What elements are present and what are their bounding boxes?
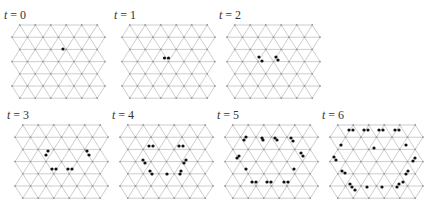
particle-dot xyxy=(411,159,414,162)
lattice-edge xyxy=(369,149,377,161)
lattice-edge xyxy=(415,149,423,161)
particle-dot xyxy=(362,128,365,131)
lattice-vertex xyxy=(399,149,401,151)
lattice-edge xyxy=(377,174,385,186)
lattice-vertex xyxy=(399,173,401,175)
lattice-vertex xyxy=(399,197,401,199)
lattice-edge xyxy=(338,186,346,198)
lattice-vertex xyxy=(422,136,424,138)
lattice-edge xyxy=(377,162,385,174)
particle-dot xyxy=(347,128,350,131)
lattice-edge xyxy=(392,137,400,149)
lattice-vertex xyxy=(407,161,409,163)
lattice-edge xyxy=(353,149,361,161)
particle-dot xyxy=(339,143,342,146)
particle-dot xyxy=(343,171,346,174)
lattice-edge xyxy=(361,174,369,186)
lattice-vertex xyxy=(383,197,385,199)
lattice-vertex xyxy=(414,173,416,175)
triangular-lattice xyxy=(0,0,438,217)
lattice-vertex xyxy=(352,149,354,151)
lattice-vertex xyxy=(329,136,331,138)
particle-dot xyxy=(404,143,407,146)
particle-dot xyxy=(395,185,398,188)
particle-dot xyxy=(353,188,356,191)
lattice-edge xyxy=(353,137,361,149)
lattice-edge xyxy=(415,174,423,186)
lattice-edge xyxy=(392,149,400,161)
lattice-edge xyxy=(338,137,346,149)
lattice-edge xyxy=(408,149,416,161)
lattice-edge xyxy=(353,162,361,174)
lattice-vertex xyxy=(399,124,401,126)
lattice-vertex xyxy=(407,185,409,187)
lattice-edge xyxy=(338,174,346,186)
lattice-edge xyxy=(384,137,392,149)
particle-dot xyxy=(351,128,354,131)
lattice-vertex xyxy=(345,136,347,138)
lattice-vertex xyxy=(414,149,416,151)
lattice-edge xyxy=(415,125,423,137)
lattice-edge xyxy=(384,174,392,186)
lattice-vertex xyxy=(391,161,393,163)
lattice-vertex xyxy=(329,185,331,187)
lattice-vertex xyxy=(345,185,347,187)
lattice-edge xyxy=(415,162,423,174)
lattice-vertex xyxy=(422,161,424,163)
particle-dot xyxy=(350,185,353,188)
particle-dot xyxy=(406,169,409,172)
lattice-vertex xyxy=(391,185,393,187)
lattice-edge xyxy=(384,125,392,137)
lattice-vertex xyxy=(337,124,339,126)
lattice-edge xyxy=(400,125,408,137)
lattice-edge xyxy=(338,125,346,137)
lattice-edge xyxy=(369,125,377,137)
lattice-vertex xyxy=(376,161,378,163)
lattice-vertex xyxy=(414,124,416,126)
lattice-vertex xyxy=(360,136,362,138)
particle-dot xyxy=(393,128,396,131)
lattice-edge xyxy=(353,174,361,186)
lattice-vertex xyxy=(360,161,362,163)
lattice-vertex xyxy=(337,173,339,175)
lattice-edge xyxy=(384,149,392,161)
lattice-edge xyxy=(384,162,392,174)
lattice-vertex xyxy=(383,149,385,151)
lattice-vertex xyxy=(368,124,370,126)
lattice-edge xyxy=(330,162,338,174)
lattice-vertex xyxy=(352,197,354,199)
lattice-edge xyxy=(353,186,361,198)
lattice-edge xyxy=(369,186,377,198)
lattice-edge xyxy=(369,162,377,174)
lattice-edge xyxy=(408,137,416,149)
lattice-vertex xyxy=(368,197,370,199)
lattice-edge xyxy=(346,137,354,149)
particle-dot xyxy=(365,185,368,188)
lattice-edge xyxy=(408,174,416,186)
lattice-edge xyxy=(408,125,416,137)
lattice-vertex xyxy=(352,124,354,126)
lattice-edge xyxy=(408,186,416,198)
particle-dot xyxy=(381,128,384,131)
lattice-vertex xyxy=(337,197,339,199)
particle-dot xyxy=(372,146,375,149)
particle-dot xyxy=(348,182,351,185)
lattice-vertex xyxy=(414,197,416,199)
lattice-edge xyxy=(400,174,408,186)
lattice-edge xyxy=(353,125,361,137)
lattice-vertex xyxy=(383,173,385,175)
particle-dot xyxy=(397,182,400,185)
lattice-edge xyxy=(330,174,338,186)
particle-dot xyxy=(334,158,337,161)
particle-dot xyxy=(404,172,407,175)
particle-dot xyxy=(366,128,369,131)
lattice-vertex xyxy=(383,124,385,126)
lattice-vertex xyxy=(368,173,370,175)
particle-dot xyxy=(332,155,335,158)
lattice-vertex xyxy=(376,185,378,187)
particle-dot xyxy=(397,128,400,131)
lattice-vertex xyxy=(360,185,362,187)
lattice-vertex xyxy=(368,149,370,151)
lattice-edge xyxy=(384,186,392,198)
lattice-vertex xyxy=(407,136,409,138)
